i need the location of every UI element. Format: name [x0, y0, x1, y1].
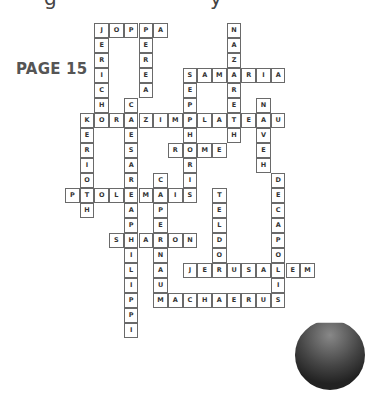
crossword-cell: K [80, 113, 95, 128]
crossword-cell: R [168, 143, 183, 158]
crossword-cell: A [124, 203, 139, 218]
crossword-cell: J [183, 263, 198, 278]
crossword-cell: A [153, 23, 168, 38]
crossword-cell: E [286, 263, 301, 278]
crossword-cell: Z [139, 113, 154, 128]
crossword-cell: S [271, 293, 286, 308]
crossword-cell: H [183, 128, 198, 143]
crossword-cell: A [256, 113, 271, 128]
crossword-cell: M [300, 263, 315, 278]
crossword-cell: L [212, 218, 227, 233]
crossword-cell: O [168, 233, 183, 248]
crossword-cell: I [124, 248, 139, 263]
crossword-cell: N [183, 233, 198, 248]
crossword-cell: R [212, 263, 227, 278]
crossword-cell: U [227, 263, 242, 278]
crossword-cell: H [124, 233, 139, 248]
crossword-cell: O [212, 248, 227, 263]
crossword-cell: O [94, 113, 109, 128]
crossword-cell: J [94, 23, 109, 38]
crossword-cell: L [271, 263, 286, 278]
crossword-cell: P [124, 218, 139, 233]
crossword-cell: P [271, 233, 286, 248]
crossword-cell: E [227, 98, 242, 113]
crossword-cell: T [227, 113, 242, 128]
crossword-cell: S [183, 68, 198, 83]
crossword-cell: T [212, 188, 227, 203]
crossword-cell: R [183, 158, 198, 173]
crossword-cell: E [183, 83, 198, 98]
crossword-cell: E [197, 263, 212, 278]
crossword-cell: O [109, 23, 124, 38]
crossword-cell: R [80, 143, 95, 158]
crossword-cell: I [94, 68, 109, 83]
crossword-cell: M [139, 188, 154, 203]
crossword-cell: A [197, 68, 212, 83]
crossword-cell: O [94, 188, 109, 203]
crossword-cell: H [227, 128, 242, 143]
crossword-cell: O [271, 248, 286, 263]
crossword-cell: N [153, 248, 168, 263]
crossword-cell: E [94, 38, 109, 53]
crossword-cell: R [227, 83, 242, 98]
crossword-cell: T [80, 188, 95, 203]
crossword-cell: E [139, 38, 154, 53]
crossword-cell: R [124, 173, 139, 188]
crossword-cell: A [124, 158, 139, 173]
crossword-cell: I [271, 278, 286, 293]
crossword-cell: S [241, 263, 256, 278]
crossword-cell: E [227, 293, 242, 308]
crossword-cell: A [124, 113, 139, 128]
crossword-cell: R [94, 53, 109, 68]
crossword-cell: P [124, 308, 139, 323]
crossword-cell: L [109, 188, 124, 203]
crossword-cell: C [124, 98, 139, 113]
crossword-cell: E [153, 218, 168, 233]
crossword-cell: I [256, 68, 271, 83]
crossword-cell: A [153, 263, 168, 278]
crossword-cell: A [227, 38, 242, 53]
crossword-cell: I [153, 113, 168, 128]
crossword-cell: V [256, 128, 271, 143]
crossword-cell: U [256, 293, 271, 308]
crossword-cell: S [109, 233, 124, 248]
crossword-cell: P [124, 23, 139, 38]
crossword-cell: A [139, 83, 154, 98]
crossword-cell: A [227, 68, 242, 83]
crossword-cell: R [153, 233, 168, 248]
crossword-cell: E [212, 143, 227, 158]
crossword-cell: A [271, 218, 286, 233]
crossword-cell: E [256, 143, 271, 158]
crossword-cell: A [153, 188, 168, 203]
crossword-cell: H [80, 203, 95, 218]
crossword-cell: A [212, 293, 227, 308]
crossword-cell: P [139, 23, 154, 38]
crossword-cell: O [183, 143, 198, 158]
crossword-cell: H [197, 293, 212, 308]
crossword-cell: C [94, 83, 109, 98]
crossword-cell: E [124, 128, 139, 143]
crossword-cell: P [183, 98, 198, 113]
crossword-cell: Z [227, 53, 242, 68]
crossword-cell: N [256, 98, 271, 113]
crossword-cell: D [271, 173, 286, 188]
crossword-cell: R [109, 113, 124, 128]
crossword-cell: S [124, 143, 139, 158]
crossword-cell: R [139, 53, 154, 68]
crossword-cell: E [124, 188, 139, 203]
crossword-cell: A [139, 233, 154, 248]
crossword-cell: I [168, 188, 183, 203]
crossword-cell: P [124, 293, 139, 308]
crossword-cell: E [139, 68, 154, 83]
crossword-cell: U [153, 278, 168, 293]
crossword-cell: C [183, 293, 198, 308]
crossword-cell: I [124, 323, 139, 338]
crossword-cell: A [168, 293, 183, 308]
crossword-cell: E [271, 188, 286, 203]
crossword-cell: N [227, 23, 242, 38]
crossword-cell: I [124, 278, 139, 293]
crossword-cell: I [80, 158, 95, 173]
crossword-cell: R [241, 68, 256, 83]
crossword-cell: E [241, 113, 256, 128]
crossword-cell: O [80, 173, 95, 188]
